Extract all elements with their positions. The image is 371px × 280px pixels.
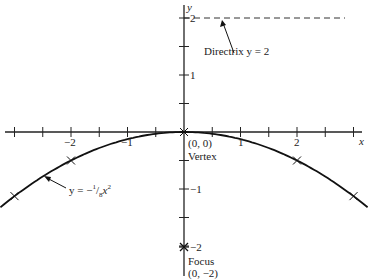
focus-coords-label: (0, −2) — [188, 268, 218, 279]
parabola-chart — [0, 0, 371, 280]
directrix-label: Directrix y = 2 — [204, 46, 269, 57]
tick-label-y-2: 2 — [190, 13, 196, 24]
tick-label-x-1: 1 — [238, 137, 244, 148]
curve-arrowhead — [44, 176, 51, 182]
tick-label-x-neg2: −2 — [64, 137, 76, 148]
focus-label: Focus — [188, 256, 214, 267]
tick-label-x-neg1: −1 — [121, 137, 133, 148]
tick-label-x-2: 2 — [294, 137, 300, 148]
x-axis-label: x — [359, 136, 364, 147]
tick-label-y-neg2: −2 — [190, 242, 202, 253]
tick-label-y-neg1: −1 — [190, 184, 202, 195]
curve-equation-label: y = −1/8x2 — [69, 184, 111, 199]
vertex-label: Vertex — [188, 151, 217, 162]
vertex-coords-label: (0, 0) — [188, 138, 212, 149]
tick-label-y-1: 1 — [190, 70, 196, 81]
directrix-arrowhead — [220, 20, 226, 27]
